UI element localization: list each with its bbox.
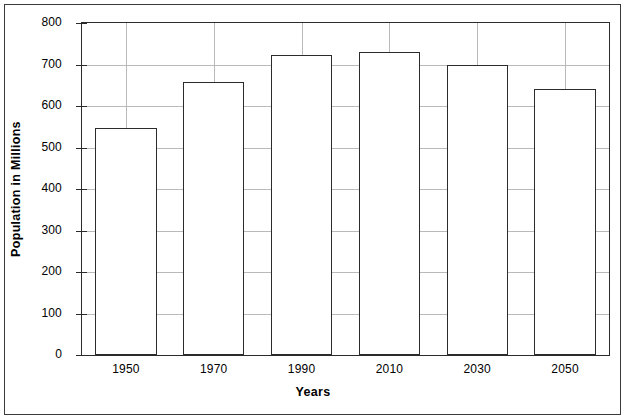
y-gridline <box>82 148 609 149</box>
bar-1950[interactable] <box>95 128 156 355</box>
x-axis-tick-label: 2050 <box>551 362 579 376</box>
bar-2030[interactable] <box>447 65 508 355</box>
y-gridline <box>82 231 609 232</box>
y-axis-tick-label: 800 <box>0 15 62 29</box>
y-axis-tick-label: 600 <box>0 98 62 112</box>
bar-1970[interactable] <box>183 82 244 355</box>
x-axis-tick-label: 1950 <box>112 362 140 376</box>
y-axis-tick <box>76 314 87 315</box>
x-axis-tick-label: 1970 <box>200 362 228 376</box>
y-gridline <box>82 314 609 315</box>
x-axis-tick-label: 1990 <box>288 362 316 376</box>
y-axis-tick <box>76 231 87 232</box>
y-axis-tick <box>76 355 87 356</box>
y-axis-tick <box>76 148 87 149</box>
chart-root: Population in Millions Years 01002003004… <box>0 0 626 420</box>
y-axis-tick-label: 500 <box>0 140 62 154</box>
y-axis-tick-label: 700 <box>0 57 62 71</box>
y-axis-tick <box>76 189 87 190</box>
y-gridline <box>82 272 609 273</box>
y-axis-tick-label: 400 <box>0 181 62 195</box>
bar-2010[interactable] <box>359 52 420 355</box>
y-axis-tick <box>76 106 87 107</box>
plot-inner-area <box>82 23 609 355</box>
y-axis-tick <box>76 272 87 273</box>
y-axis-tick <box>76 23 87 24</box>
y-axis-tick-label: 100 <box>0 306 62 320</box>
y-axis-tick-label: 300 <box>0 223 62 237</box>
bar-1990[interactable] <box>271 55 332 355</box>
y-axis-tick-label: 200 <box>0 264 62 278</box>
x-axis-tick-label: 2030 <box>464 362 492 376</box>
y-gridline <box>82 189 609 190</box>
y-axis-tick-label: 0 <box>0 347 62 361</box>
y-gridline <box>82 106 609 107</box>
x-axis-title: Years <box>0 385 626 399</box>
y-gridline <box>82 65 609 66</box>
y-axis-tick <box>76 65 87 66</box>
x-axis-tick-label: 2010 <box>376 362 404 376</box>
plot-area-frame <box>81 22 610 356</box>
bar-2050[interactable] <box>534 89 595 355</box>
